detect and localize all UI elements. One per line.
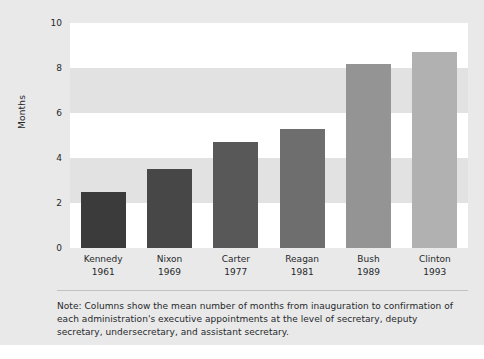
bar-chart-figure: 0246810 Months Kennedy1961Nixon1969Carte…	[0, 0, 484, 359]
x-label-year: 1981	[269, 266, 335, 279]
x-label-name: Nixon	[136, 253, 202, 266]
chart-note: Note: Columns show the mean number of mo…	[57, 300, 461, 340]
x-label-clinton: Clinton1993	[402, 253, 468, 278]
y-tick-label: 4	[56, 154, 62, 163]
bar-kennedy	[81, 192, 126, 248]
y-tick-label: 2	[56, 199, 62, 208]
note-divider	[57, 290, 468, 291]
x-label-nixon: Nixon1969	[136, 253, 202, 278]
x-label-bush: Bush1989	[335, 253, 401, 278]
x-label-carter: Carter1977	[203, 253, 269, 278]
y-tick-label: 10	[51, 19, 62, 28]
bar-nixon	[147, 169, 192, 248]
bar-bush	[346, 64, 391, 249]
bar-clinton	[412, 52, 457, 248]
plot-area	[70, 23, 468, 248]
x-label-name: Clinton	[402, 253, 468, 266]
x-label-year: 1989	[335, 266, 401, 279]
x-label-year: 1993	[402, 266, 468, 279]
x-label-name: Carter	[203, 253, 269, 266]
x-label-kennedy: Kennedy1961	[70, 253, 136, 278]
x-label-name: Bush	[335, 253, 401, 266]
x-label-year: 1969	[136, 266, 202, 279]
x-label-reagan: Reagan1981	[269, 253, 335, 278]
x-label-name: Reagan	[269, 253, 335, 266]
x-label-year: 1961	[70, 266, 136, 279]
y-tick-label: 6	[56, 109, 62, 118]
bar-reagan	[280, 129, 325, 248]
y-axis-title: Months	[17, 107, 27, 129]
x-label-year: 1977	[203, 266, 269, 279]
y-axis-ticks: 0246810	[0, 0, 70, 271]
x-label-name: Kennedy	[70, 253, 136, 266]
x-axis-category-labels: Kennedy1961Nixon1969Carter1977Reagan1981…	[70, 253, 468, 285]
bar-carter	[213, 142, 258, 248]
y-tick-label: 8	[56, 64, 62, 73]
bar-series	[70, 23, 468, 248]
y-tick-label: 0	[56, 244, 62, 253]
